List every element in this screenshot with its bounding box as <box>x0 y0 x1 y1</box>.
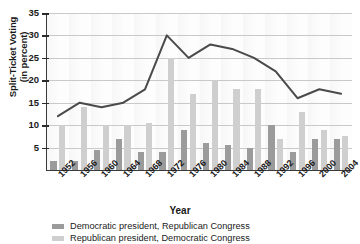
y-tick-label: 20 <box>15 74 39 85</box>
y-tick-mark <box>42 125 49 127</box>
legend-label: Democratic president, Republican Congres… <box>70 221 250 231</box>
y-tick-mark <box>42 103 49 105</box>
x-axis-tick-labels: 1952195619601964196819721976198019841988… <box>47 172 352 206</box>
y-tick-mark <box>42 13 49 15</box>
y-tick-label: 35 <box>15 7 39 18</box>
legend-item: Democratic president, Republican Congres… <box>52 221 360 231</box>
y-tick-label: 5 <box>15 142 39 153</box>
y-tick-label: 30 <box>15 29 39 40</box>
y-tick-label: 25 <box>15 52 39 63</box>
chart-legend: Democratic president, Republican Congres… <box>52 221 360 244</box>
legend-swatch <box>52 236 64 241</box>
legend-swatch <box>52 224 64 229</box>
y-tick-mark <box>42 35 49 37</box>
legend-item: Republican president, Democratic Congres… <box>52 233 360 243</box>
y-tick-mark <box>42 80 49 82</box>
x-axis-title: Year <box>0 205 360 216</box>
y-tick-label: 15 <box>15 97 39 108</box>
line-series-layer <box>47 13 352 170</box>
y-tick-mark <box>42 58 49 60</box>
y-tick-mark <box>42 148 49 150</box>
y-tick-label: 10 <box>15 119 39 130</box>
legend-label: Republican president, Democratic Congres… <box>70 233 250 243</box>
plot-area <box>47 13 352 170</box>
split-ticket-line <box>58 35 341 116</box>
split-ticket-voting-chart: Split-Ticket Voting (in percent) 5101520… <box>0 0 360 244</box>
